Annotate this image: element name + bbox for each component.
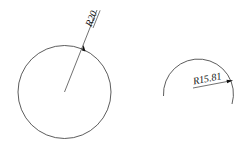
r15-81-dimension-label: R15.81 [191, 70, 222, 86]
drawing-svg: R20 R15.81 [0, 0, 243, 149]
cad-drawing-canvas: R20 R15.81 [0, 0, 243, 149]
